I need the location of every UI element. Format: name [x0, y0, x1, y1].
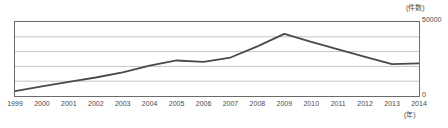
x-tick-label: 1999 [7, 99, 23, 108]
line-chart: (件数) 50000 0 199920002001200220032004200… [0, 0, 448, 128]
x-tick-label: 2008 [250, 99, 266, 108]
x-axis-tick-labels: 1999200020012002200320042005200620072008… [14, 99, 420, 111]
y-axis-unit-label: (件数) [406, 4, 425, 12]
data-series-line [15, 34, 419, 91]
x-tick-label: 2010 [303, 99, 319, 108]
x-tick-label: 2003 [115, 99, 131, 108]
plot-area [14, 21, 420, 97]
x-tick-label: 2004 [142, 99, 158, 108]
x-tick-label: 2012 [357, 99, 373, 108]
x-tick-label: 2013 [384, 99, 400, 108]
plot-svg [15, 22, 419, 96]
y-axis-max-tick-label: 50000 [422, 16, 441, 24]
x-tick-label: 2002 [88, 99, 104, 108]
x-axis-unit-label: (年) [404, 111, 416, 119]
y-axis-zero-tick-label: 0 [422, 91, 426, 99]
x-tick-label: 2014 [411, 99, 427, 108]
x-tick-label: 2009 [277, 99, 293, 108]
x-tick-label: 2011 [331, 99, 346, 108]
x-tick-label: 2006 [196, 99, 212, 108]
x-tick-label: 2001 [61, 99, 77, 108]
x-tick-label: 2007 [223, 99, 239, 108]
x-tick-label: 2000 [34, 99, 50, 108]
x-tick-label: 2005 [169, 99, 185, 108]
